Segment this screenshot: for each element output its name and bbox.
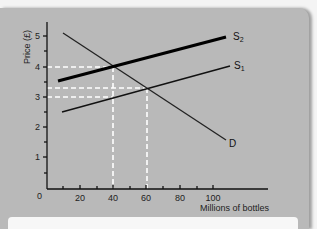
y-tick-3: 3 [35, 92, 40, 102]
supply-demand-chart: 5 4 3 2 1 0 20 40 60 80 100 Millions of … [0, 0, 317, 229]
y-tick-5: 5 [35, 31, 40, 41]
y-tick-labels: 5 4 3 2 1 0 [35, 31, 42, 201]
y-tick-1: 1 [35, 152, 40, 162]
x-tick-40: 40 [108, 193, 118, 203]
label-S1: S1 [234, 60, 245, 72]
x-tick-80: 80 [175, 193, 185, 203]
x-tick-20: 20 [75, 193, 85, 203]
x-tick-60: 60 [141, 193, 151, 203]
y-axis-title: Price (£) [22, 30, 32, 64]
y-tick-2: 2 [35, 122, 40, 132]
y-tick-4: 4 [35, 62, 40, 72]
x-tick-labels: 20 40 60 80 100 [75, 193, 221, 203]
origin-label: 0 [37, 191, 42, 201]
x-tick-100: 100 [205, 193, 220, 203]
x-axis-title: Millions of bottles [200, 203, 270, 213]
axes [43, 22, 268, 189]
dashed-guides [47, 67, 147, 189]
demand-line-D [63, 33, 226, 140]
label-S2: S2 [233, 31, 244, 43]
label-D: D [229, 138, 236, 149]
